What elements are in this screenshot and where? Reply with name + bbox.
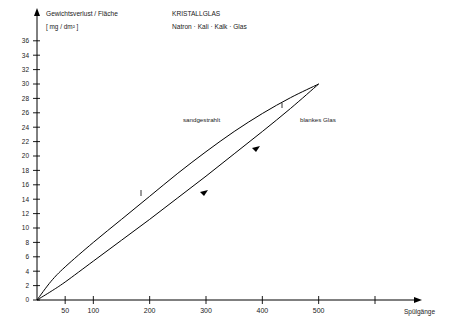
y-tick-label-24: 24 — [22, 124, 30, 131]
y-tick-label-26: 26 — [22, 109, 30, 116]
series-line-blankes-glas — [37, 84, 319, 300]
y-tick-label-8: 8 — [25, 239, 29, 246]
chart-container: 024681012141618202224262830323436 501002… — [0, 0, 458, 323]
y-tick-label-36: 36 — [22, 37, 30, 44]
y-tick-label-18: 18 — [22, 167, 30, 174]
series-label-sandgestrahlt: sandgestrahlt — [183, 116, 220, 123]
y-tick-label-10: 10 — [22, 224, 30, 231]
y-axis — [34, 8, 40, 300]
x-tick-label-400: 400 — [256, 307, 268, 314]
y-tick-label-30: 30 — [22, 80, 30, 87]
y-tick-label-32: 32 — [22, 66, 30, 73]
y-tick-label-4: 4 — [25, 268, 29, 275]
y-tick-label-12: 12 — [22, 210, 30, 217]
y-tick-label-0: 0 — [25, 296, 29, 303]
chart-subtitle: Natron · Kali · Kalk · Glas — [172, 23, 247, 30]
y-tick-label-20: 20 — [22, 152, 30, 159]
x-axis — [37, 297, 422, 303]
series-label-blankes-glas: blankes Glas — [300, 116, 336, 123]
y-tick-label-16: 16 — [22, 181, 30, 188]
x-tick-label-300: 300 — [200, 307, 212, 314]
x-tick-label-100: 100 — [87, 307, 99, 314]
y-axis-title: Gewichtsverlust / Fläche — [46, 10, 118, 17]
y-axis-arrow — [34, 8, 40, 16]
x-tick-group: 50100200300400500 — [61, 296, 324, 314]
series-line-sandgestrahlt — [37, 84, 319, 300]
chart-svg: 024681012141618202224262830323436 501002… — [0, 0, 458, 323]
y-tick-label-34: 34 — [22, 52, 30, 59]
x-tick-label-200: 200 — [144, 307, 156, 314]
x-tick-label-50: 50 — [61, 307, 69, 314]
y-tick-label-6: 6 — [25, 253, 29, 260]
curve-marker-lower — [252, 146, 260, 152]
curve-marker-upper — [200, 190, 208, 196]
x-tick-label-500: 500 — [313, 307, 325, 314]
x-axis-title: Spülgänge — [404, 308, 435, 316]
y-tick-label-22: 22 — [22, 138, 30, 145]
y-tick-label-28: 28 — [22, 95, 30, 102]
x-axis-arrow — [414, 297, 422, 303]
y-axis-unit: [ mg / dm² ] — [46, 23, 79, 31]
y-tick-label-14: 14 — [22, 196, 30, 203]
chart-title: KRISTALLGLAS — [172, 10, 221, 17]
y-tick-label-2: 2 — [25, 282, 29, 289]
